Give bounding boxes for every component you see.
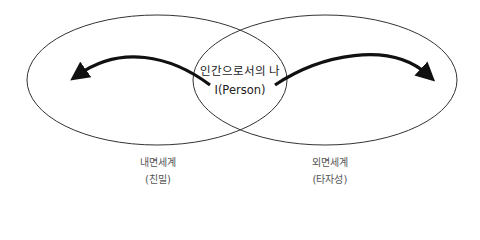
right-circle-subtitle: (타자성) (290, 171, 370, 188)
center-label-line2: I(Person) (190, 81, 290, 100)
left-circle-subtitle: (친밀) (118, 171, 198, 188)
right-arrow (275, 55, 428, 85)
right-circle-label: 외면세계 (타자성) (290, 154, 370, 188)
right-circle-title: 외면세계 (290, 154, 370, 171)
center-label-line1: 인간으로서의 나 (190, 62, 290, 81)
left-circle-label: 내면세계 (친밀) (118, 154, 198, 188)
left-circle-title: 내면세계 (118, 154, 198, 171)
center-label: 인간으로서의 나 I(Person) (190, 62, 290, 100)
